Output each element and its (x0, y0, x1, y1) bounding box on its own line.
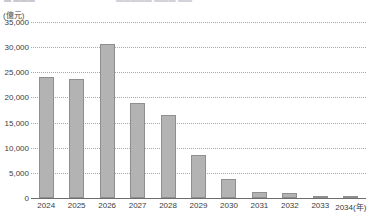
y-axis-tick-label: 35,000 (5, 18, 29, 27)
gridline (31, 22, 366, 23)
x-axis-line (31, 198, 366, 199)
bar-2030[interactable] (221, 179, 236, 198)
gridline (31, 47, 366, 48)
x-axis-tick-label: 2031 (251, 201, 269, 210)
caption-left-text: ▬ ▬▬▬ (4, 0, 35, 3)
bar-2027[interactable] (130, 103, 145, 198)
x-axis-tick-label: 2028 (159, 201, 177, 210)
bar-2024[interactable] (39, 77, 54, 198)
bar-2028[interactable] (161, 115, 176, 198)
y-axis-tick-label: 0 (25, 194, 29, 203)
bar-2025[interactable] (69, 79, 84, 198)
y-axis-tick-labels: 05,00010,00015,00020,00025,00030,00035,0… (0, 22, 29, 198)
x-axis-tick-label: 2034(年) (335, 201, 366, 212)
y-axis-tick-label: 20,000 (5, 93, 29, 102)
y-axis-tick-label: 5,000 (9, 168, 29, 177)
x-axis-tick-label: 2029 (190, 201, 208, 210)
plot-area (31, 22, 366, 198)
x-axis-tick-label: 2027 (129, 201, 147, 210)
x-axis-tick-label: 2025 (68, 201, 86, 210)
cut-off-caption-strip: ▬ ▬▬▬ ▬▬▬▬▬ ▬▬▬ ▬▬ (0, 0, 371, 7)
gridline (31, 72, 366, 73)
x-axis-tick-label: 2033 (311, 201, 329, 210)
x-axis-tick-label: 2032 (281, 201, 299, 210)
y-axis-tick-label: 10,000 (5, 143, 29, 152)
x-axis-tick-label: 2026 (98, 201, 116, 210)
y-axis-tick-label: 30,000 (5, 43, 29, 52)
bar-2026[interactable] (100, 44, 115, 198)
x-axis-tick-labels: 2024202520262027202820292030203120322033… (31, 201, 366, 217)
bar-chart: (億元) 05,00010,00015,00020,00025,00030,00… (0, 7, 371, 222)
caption-right-text: ▬▬▬▬▬ ▬▬▬ ▬▬ (116, 0, 192, 3)
y-axis-tick-label: 15,000 (5, 118, 29, 127)
x-axis-tick-label: 2030 (220, 201, 238, 210)
y-axis-tick-label: 25,000 (5, 68, 29, 77)
bar-2029[interactable] (191, 155, 206, 198)
x-axis-tick-label: 2024 (37, 201, 55, 210)
